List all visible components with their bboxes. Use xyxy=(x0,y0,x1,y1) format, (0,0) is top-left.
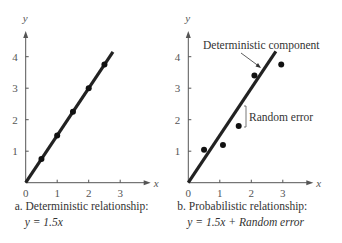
x-tick-label: 1 xyxy=(217,187,223,199)
panel-b-probabilistic: yx01231234b. Probabilistic relationship:… xyxy=(175,12,321,229)
arrow-head-icon xyxy=(256,63,262,68)
y-tick-label: 1 xyxy=(12,145,18,157)
random-error-bracket xyxy=(244,106,246,127)
caption-title: b. Probabilistic relationship: xyxy=(177,200,307,213)
data-point xyxy=(70,109,76,115)
caption-title: a. Deterministic relationship: xyxy=(15,200,149,213)
y-axis-arrow-icon xyxy=(23,31,28,38)
y-tick-label: 3 xyxy=(12,82,18,94)
annotation-deterministic-component: Deterministic component xyxy=(203,39,320,52)
data-point xyxy=(54,132,60,138)
data-point xyxy=(251,73,257,79)
x-tick-label: 0 xyxy=(23,187,29,199)
figure: yx01231234a. Deterministic relationship:… xyxy=(0,0,342,243)
data-point xyxy=(101,62,107,68)
annotation-random-error: Random error xyxy=(249,111,313,123)
data-point xyxy=(236,123,242,129)
caption-equation: y = 1.5x + Random error xyxy=(186,216,304,229)
x-tick-label: 3 xyxy=(280,187,286,199)
x-tick-label: 0 xyxy=(186,187,192,199)
data-point xyxy=(220,142,226,148)
x-axis-label: x xyxy=(153,177,159,189)
panel-a-deterministic: yx01231234a. Deterministic relationship:… xyxy=(12,12,159,229)
y-axis-arrow-icon xyxy=(186,31,191,38)
y-tick-label: 3 xyxy=(175,82,181,94)
y-tick-label: 2 xyxy=(12,114,18,126)
x-tick-label: 1 xyxy=(54,187,60,199)
y-axis-label: y xyxy=(184,12,190,24)
data-point xyxy=(86,85,92,91)
data-point xyxy=(201,147,207,153)
x-axis-arrow-icon xyxy=(144,180,151,185)
y-tick-label: 4 xyxy=(12,51,18,63)
x-tick-label: 3 xyxy=(117,187,123,199)
x-axis-arrow-icon xyxy=(306,180,313,185)
y-axis-label: y xyxy=(22,12,28,24)
y-tick-label: 1 xyxy=(175,145,181,157)
data-point xyxy=(38,156,44,162)
caption-equation: y = 1.5x xyxy=(24,216,64,229)
y-tick-label: 4 xyxy=(175,51,181,63)
y-tick-label: 2 xyxy=(175,114,181,126)
data-point xyxy=(278,62,284,68)
x-tick-label: 2 xyxy=(86,187,92,199)
x-tick-label: 2 xyxy=(249,187,255,199)
regression-line xyxy=(26,52,113,183)
x-axis-label: x xyxy=(315,177,321,189)
